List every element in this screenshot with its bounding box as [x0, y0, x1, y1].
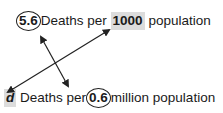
double-arrow-d-to-1000 — [8, 30, 109, 92]
double-arrow-5-6-to-0-6 — [41, 37, 68, 86]
cross-arrows — [0, 0, 223, 113]
